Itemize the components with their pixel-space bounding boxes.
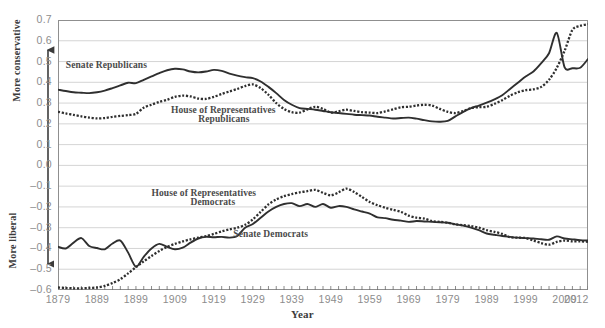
y-tick-label: –0.1 <box>24 179 52 191</box>
y-tick-label: 0.4 <box>24 75 52 87</box>
y-tick-label: 0.0 <box>24 158 52 170</box>
x-tick-label: 1969 <box>396 293 421 305</box>
series-line-0 <box>58 33 588 122</box>
series-annotation: Democrats <box>191 196 236 208</box>
y-tick-label: 0.1 <box>24 138 52 150</box>
x-tick-label: 1939 <box>280 293 305 305</box>
y-tick-label: –0.3 <box>24 221 52 233</box>
y-tick-label: 0.5 <box>24 55 52 67</box>
x-tick-label: 1909 <box>163 293 188 305</box>
x-tick-label: 1999 <box>513 293 538 305</box>
series-annotation: Republicans <box>198 113 249 125</box>
series-annotation: Senate Republicans <box>66 59 147 71</box>
x-tick-label: 1929 <box>241 293 266 305</box>
y-tick-label: 0.3 <box>24 96 52 108</box>
y-axis-title-liberal: More liberal <box>7 199 18 283</box>
y-axis-tick-labels: 0.70.60.50.40.30.20.10.0–0.1–0.2–0.3–0.4… <box>22 0 52 328</box>
chart-root: More conservative More liberal Year 0.70… <box>0 0 605 328</box>
series-line-3 <box>58 203 588 267</box>
x-tick-label: 1979 <box>435 293 460 305</box>
y-tick-label: 0.6 <box>24 34 52 46</box>
x-tick-label: 2012 <box>564 293 589 305</box>
y-tick-label: 0.7 <box>24 13 52 25</box>
x-tick-label: 1959 <box>357 293 382 305</box>
series-annotation: Senate Democrats <box>233 228 308 240</box>
x-tick-label: 1919 <box>202 293 227 305</box>
x-tick-label: 1899 <box>124 293 149 305</box>
series-line-1 <box>58 24 588 118</box>
x-axis-tick-labels: 1879188918991909191919291939194919591969… <box>0 291 605 311</box>
y-tick-label: –0.4 <box>24 241 52 253</box>
x-tick-label: 1949 <box>319 293 344 305</box>
x-tick-label: 1989 <box>474 293 499 305</box>
x-tick-label: 1879 <box>46 293 71 305</box>
y-tick-label: 0.2 <box>24 117 52 129</box>
x-tick-label: 1889 <box>85 293 110 305</box>
y-tick-label: –0.5 <box>24 262 52 274</box>
y-axis-title-conservative: More conservative <box>11 11 22 111</box>
y-tick-label: –0.2 <box>24 200 52 212</box>
